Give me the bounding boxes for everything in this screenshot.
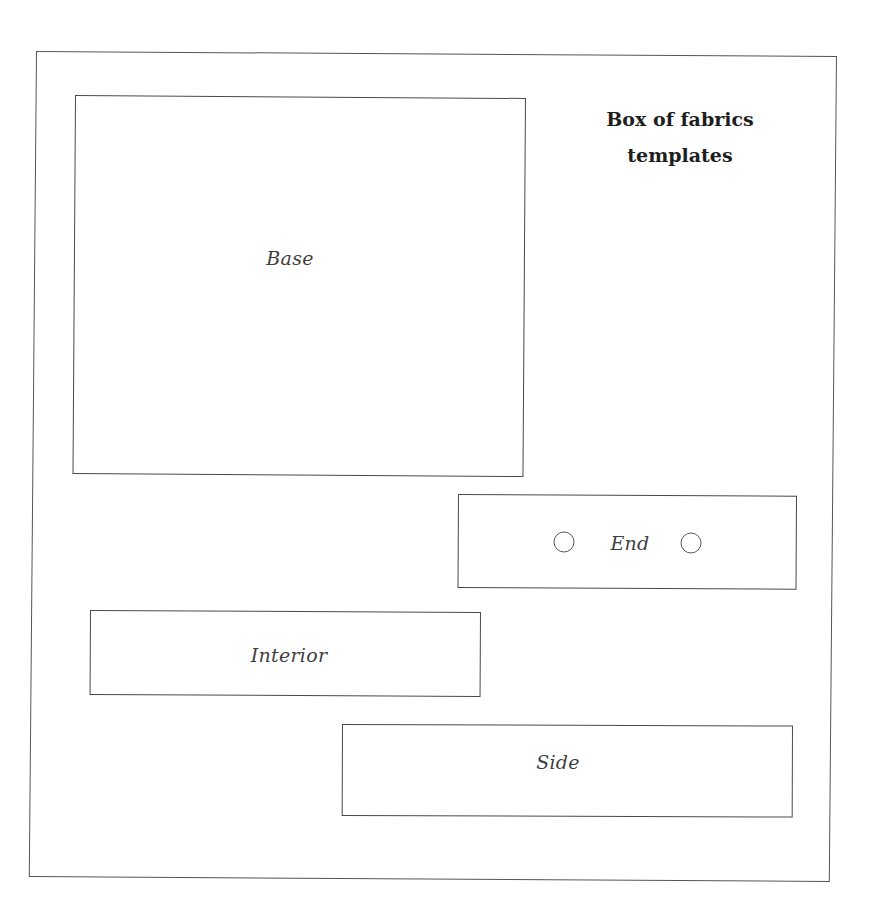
- base-label: Base: [266, 247, 314, 269]
- left-hole-circle: [554, 532, 575, 553]
- page-title: Box of fabrics templates: [560, 101, 800, 173]
- end-label: End: [610, 532, 649, 554]
- side-label: Side: [536, 751, 580, 773]
- template-sheet: Box of fabrics templates Base End Interi…: [0, 0, 877, 921]
- title-line-2: templates: [560, 137, 800, 173]
- right-hole-circle: [681, 533, 702, 554]
- interior-label: Interior: [251, 644, 328, 666]
- base-template: [72, 95, 526, 477]
- title-line-1: Box of fabrics: [560, 101, 800, 137]
